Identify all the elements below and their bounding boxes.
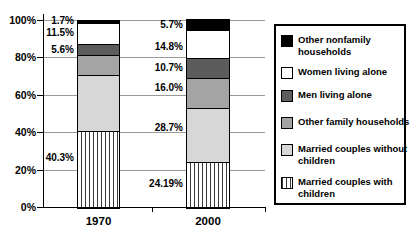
bar-1970 <box>77 20 120 209</box>
legend-label: Married couples withchildren <box>298 176 393 199</box>
x-tick-0 <box>152 207 153 212</box>
legend-item-4: Married couples withoutchildren <box>281 143 407 166</box>
legend-item-5: Married couples withchildren <box>281 176 393 199</box>
y-tick-label-80: 80% <box>2 51 36 63</box>
segment-value-label: 11.5% <box>46 28 74 38</box>
y-tick-label-0: 0% <box>2 201 36 213</box>
segment-value-label: 14.8% <box>155 42 183 52</box>
legend-item-3: Other family households <box>281 116 409 129</box>
y-tick-80 <box>37 57 43 58</box>
legend-swatch-icon <box>281 90 293 102</box>
y-tick-60 <box>37 95 43 96</box>
y-tick-100 <box>37 20 43 21</box>
legend-item-0: Other nonfamilyhouseholds <box>281 34 371 57</box>
segment-value-label: 28.7% <box>155 123 183 133</box>
legend-label: Married couples withoutchildren <box>298 143 407 166</box>
category-label-1970: 1970 <box>69 215 129 227</box>
y-tick-40 <box>37 132 43 133</box>
segment-value-label: 16.0% <box>155 83 183 93</box>
legend-label: Women living alone <box>298 66 387 78</box>
legend: Other nonfamilyhouseholdsWomen living al… <box>274 24 406 205</box>
y-tick-20 <box>37 170 43 171</box>
segment-value-label: 10.7% <box>155 63 183 73</box>
legend-swatch-icon <box>281 144 293 156</box>
segment-value-label: 1.7% <box>51 16 74 26</box>
y-tick-label-100: 100% <box>2 14 36 26</box>
legend-swatch-icon <box>281 35 293 47</box>
y-tick-label-60: 60% <box>2 89 36 101</box>
legend-item-1: Women living alone <box>281 66 387 79</box>
legend-swatch-icon <box>281 177 293 189</box>
bar-2000 <box>186 20 230 209</box>
category-label-2000: 2000 <box>178 215 238 227</box>
y-tick-label-20: 20% <box>2 164 36 176</box>
segment-value-label: 24.19% <box>149 179 183 189</box>
legend-label: Other nonfamilyhouseholds <box>298 34 371 57</box>
legend-swatch-icon <box>281 67 293 79</box>
segment-value-label: 5.7% <box>160 20 183 30</box>
x-tick-1 <box>265 207 266 212</box>
legend-label: Men living alone <box>298 89 372 101</box>
legend-item-2: Men living alone <box>281 89 372 102</box>
stacked-bar-chart: 0%20%40%60%80%100%40.3%5.6%11.5%1.7%1970… <box>0 0 411 244</box>
segment-value-label: 40.3% <box>46 153 74 163</box>
legend-label: Other family households <box>298 116 409 128</box>
y-tick-label-40: 40% <box>2 126 36 138</box>
segment-value-label: 5.6% <box>51 45 74 55</box>
legend-swatch-icon <box>281 117 293 129</box>
y-axis <box>43 14 44 207</box>
